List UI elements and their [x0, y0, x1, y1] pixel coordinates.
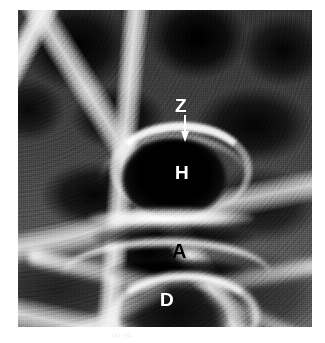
annotation-label-a: A: [172, 241, 186, 261]
annotation-label-d: D: [160, 290, 174, 309]
film-grain-coarse: [18, 10, 312, 327]
figure-caption-faint: (a) NL: [112, 332, 222, 338]
down-arrow-icon: [181, 115, 189, 143]
annotation-label-h: H: [175, 163, 189, 182]
figure-page: Z H A D (a) NL: [0, 0, 325, 343]
radiograph-image: Z H A D: [18, 10, 312, 327]
arrow-head: [181, 131, 189, 142]
annotation-label-z: Z: [175, 96, 187, 115]
